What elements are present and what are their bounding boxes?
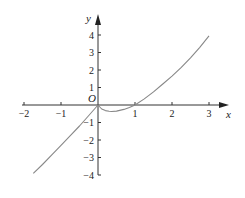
y-tick-label: 4 [89,30,94,41]
y-tick-label: 3 [89,47,94,58]
x-axis-label: x [225,108,231,120]
x-tick-label: 1 [133,108,138,119]
y-axis-label: y [85,12,91,24]
origin-label: O [88,92,96,104]
x-tick-label: −1 [56,108,67,119]
y-tick-label: 2 [89,65,94,76]
y-tick-label: −3 [83,152,94,163]
x-tick-label: −2 [19,108,30,119]
y-tick-label: −2 [83,135,94,146]
y-axis-arrow [95,14,101,25]
y-tick-label: −4 [83,170,94,181]
y-tick-label: −1 [83,117,94,128]
function-graph: −2−11234321−1−2−3−4 x y O [0,0,245,198]
axes [22,14,229,175]
x-tick-label: 2 [170,108,175,119]
x-tick-label: 3 [207,108,212,119]
